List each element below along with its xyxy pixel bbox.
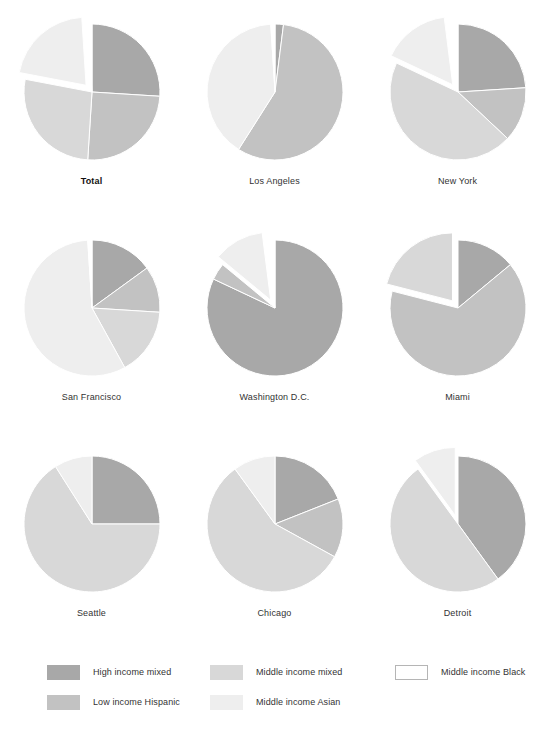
pie-1 xyxy=(195,12,355,172)
pie-slice-middle-income-mixed xyxy=(24,79,92,160)
legend-label: Middle income Asian xyxy=(256,696,340,708)
pie-7 xyxy=(195,444,355,604)
legend-label: High income mixed xyxy=(93,666,171,678)
legend-item[interactable]: High income mixed xyxy=(47,663,210,681)
legend-swatch-icon xyxy=(210,665,243,680)
pie-cell-miami: Miami xyxy=(366,216,549,432)
pie-slice-middle-income-asian xyxy=(19,17,86,85)
pie-label: New York xyxy=(438,176,477,187)
legend-swatch-icon xyxy=(47,665,80,680)
pie-label: Detroit xyxy=(444,608,472,619)
pie-slice-middle-income-mixed xyxy=(386,233,452,301)
pie-label: San Francisco xyxy=(62,392,121,403)
chart-legend: High income mixedLow income HispanicMidd… xyxy=(0,655,549,741)
pie-8 xyxy=(378,444,538,604)
pie-3 xyxy=(12,228,172,388)
legend-item[interactable]: Middle income Black xyxy=(395,663,525,681)
pie-cell-san-francisco: San Francisco xyxy=(0,216,183,432)
pie-2 xyxy=(378,12,538,172)
legend-columns: High income mixedLow income HispanicMidd… xyxy=(0,663,549,711)
pie-4 xyxy=(195,228,355,388)
pie-label: Seattle xyxy=(77,608,106,619)
pie-5 xyxy=(378,228,538,388)
pie-chart-grid: TotalLos AngelesNew YorkSan FranciscoWas… xyxy=(0,0,549,648)
legend-item[interactable]: Low income Hispanic xyxy=(47,693,210,711)
legend-column-2: Middle income Black xyxy=(395,663,549,711)
pie-label: Chicago xyxy=(257,608,291,619)
pie-cell-washington-d-c: Washington D.C. xyxy=(183,216,366,432)
pie-slice-middle-income-black xyxy=(87,24,91,92)
pie-chart-figure: TotalLos AngelesNew YorkSan FranciscoWas… xyxy=(0,0,549,741)
pie-slice-high-income-mixed xyxy=(458,24,526,92)
pie-slice-high-income-mixed xyxy=(92,456,160,524)
legend-swatch-icon xyxy=(210,695,243,710)
legend-swatch-icon xyxy=(395,665,428,680)
pie-label: Los Angeles xyxy=(249,176,300,187)
pie-cell-los-angeles: Los Angeles xyxy=(183,0,366,216)
pie-cell-detroit: Detroit xyxy=(366,432,549,648)
pie-label: Washington D.C. xyxy=(240,392,310,403)
legend-column-0: High income mixedLow income Hispanic xyxy=(47,663,210,711)
pie-slice-low-income-hispanic xyxy=(87,92,159,160)
legend-swatch-icon xyxy=(47,695,80,710)
pie-slice-high-income-mixed xyxy=(92,24,160,96)
pie-cell-new-york: New York xyxy=(366,0,549,216)
pie-cell-total: Total xyxy=(0,0,183,216)
legend-item[interactable]: Middle income mixed xyxy=(210,663,395,681)
legend-item[interactable]: Middle income Asian xyxy=(210,693,395,711)
pie-6 xyxy=(12,444,172,604)
pie-label: Total xyxy=(81,176,103,187)
pie-cell-seattle: Seattle xyxy=(0,432,183,648)
legend-column-1: Middle income mixedMiddle income Asian xyxy=(210,663,395,711)
legend-label: Low income Hispanic xyxy=(93,696,180,708)
legend-label: Middle income Black xyxy=(441,666,525,678)
pie-0 xyxy=(12,12,172,172)
pie-label: Miami xyxy=(445,392,470,403)
pie-cell-chicago: Chicago xyxy=(183,432,366,648)
legend-label: Middle income mixed xyxy=(256,666,342,678)
